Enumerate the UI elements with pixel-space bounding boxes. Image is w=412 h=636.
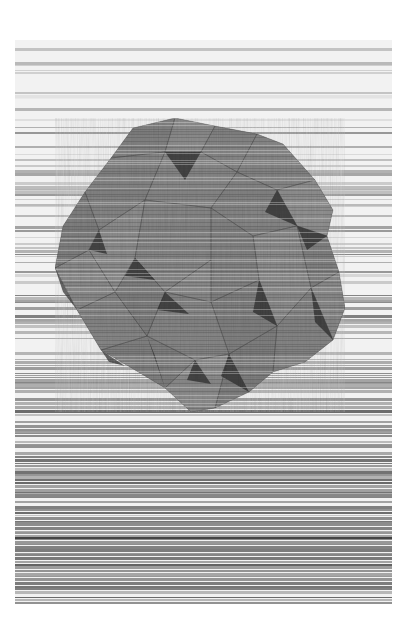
artwork-frame [15,40,392,604]
polyhedron-artwork [15,40,392,604]
page-canvas [0,0,412,636]
